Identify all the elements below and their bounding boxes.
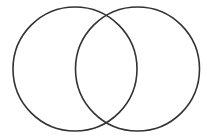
venn-diagram-svg <box>0 0 207 140</box>
venn-diagram <box>0 0 207 140</box>
